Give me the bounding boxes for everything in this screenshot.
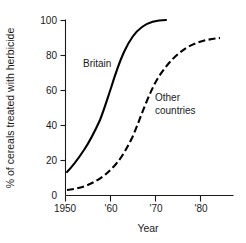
chart-container: 100 80 60 40 20 0 1950 '60 '70 '80 Year …: [0, 0, 246, 243]
x-tick-label-1970: '70: [149, 203, 162, 214]
x-axis-title: Year: [137, 222, 159, 234]
x-tick-label-1950: 1950: [54, 203, 77, 214]
y-tick-label-40: 40: [46, 120, 58, 131]
x-axis-tick-labels: 1950 '60 '70 '80: [54, 203, 208, 214]
series-label-other-countries-line1: Other: [155, 92, 181, 103]
y-tick-label-0: 0: [51, 190, 57, 201]
y-tick-label-100: 100: [40, 15, 57, 26]
x-tick-label-1980: '80: [194, 203, 207, 214]
series-label-other-countries-line2: countries: [155, 105, 196, 116]
y-axis-ticks: [61, 21, 66, 161]
y-tick-label-60: 60: [46, 85, 58, 96]
series-line-britain: [67, 20, 166, 172]
axes: [66, 20, 234, 196]
y-tick-label-20: 20: [46, 155, 58, 166]
series-label-britain: Britain: [83, 58, 111, 69]
y-axis-tick-labels: 100 80 60 40 20 0: [40, 15, 57, 201]
y-axis-title: % of cereals treated with herbicide: [4, 28, 16, 189]
y-tick-label-80: 80: [46, 50, 58, 61]
herbicide-usage-line-chart: 100 80 60 40 20 0 1950 '60 '70 '80 Year …: [0, 0, 246, 243]
x-tick-label-1960: '60: [104, 203, 117, 214]
x-axis-ticks: [66, 196, 201, 202]
